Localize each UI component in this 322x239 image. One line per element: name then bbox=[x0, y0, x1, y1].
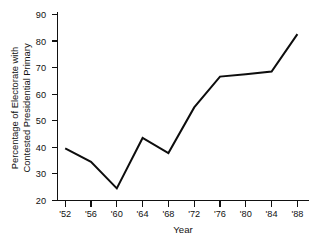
x-tick-label-64: '64 bbox=[137, 209, 149, 219]
x-tick-label-88: '88 bbox=[291, 209, 303, 219]
chart-figure: Percentage of Electorate with Contested … bbox=[0, 0, 322, 239]
y-tick-label-50: 50 bbox=[36, 116, 46, 126]
y-tick-label-20: 20 bbox=[36, 196, 46, 206]
y-tick-label-70: 70 bbox=[36, 63, 46, 73]
y-tick-label-30: 30 bbox=[36, 169, 46, 179]
x-tick-label-52: '52 bbox=[59, 209, 71, 219]
y-axis-label-line-1: Percentage of Electorate with bbox=[9, 47, 20, 169]
x-axis-label: Year bbox=[173, 224, 193, 235]
x-tick-label-60: '60 bbox=[111, 209, 123, 219]
data-series-line bbox=[65, 34, 297, 188]
x-tick-label-72: '72 bbox=[188, 209, 200, 219]
y-tick-label-40: 40 bbox=[36, 143, 46, 153]
x-tick-label-68: '68 bbox=[162, 209, 174, 219]
y-axis-label-line-2: Contested Presidential Primary bbox=[21, 43, 32, 173]
y-tick-label-60: 60 bbox=[36, 90, 46, 100]
y-tick-label-80: 80 bbox=[36, 37, 46, 47]
line-chart: Percentage of Electorate with Contested … bbox=[0, 0, 322, 239]
x-tick-label-76: '76 bbox=[214, 209, 226, 219]
x-tick-label-80: '80 bbox=[240, 209, 252, 219]
y-tick-label-90: 90 bbox=[36, 10, 46, 20]
x-tick-label-56: '56 bbox=[85, 209, 97, 219]
x-tick-label-84: '84 bbox=[266, 209, 278, 219]
